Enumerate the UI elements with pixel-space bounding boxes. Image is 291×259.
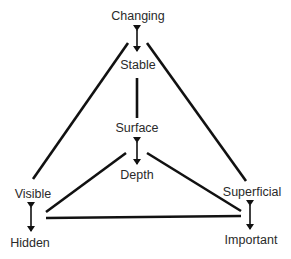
label-visible: Visible — [15, 187, 52, 201]
label-surface: Surface — [115, 121, 158, 135]
label-superficial: Superficial — [223, 185, 281, 199]
label-changing: Changing — [111, 9, 165, 23]
line-depth-hidden — [46, 153, 126, 212]
label-stable: Stable — [120, 58, 155, 72]
line-hidden-important — [46, 216, 241, 218]
label-important: Important — [225, 233, 278, 247]
line-depth-important — [147, 153, 241, 211]
label-hidden: Hidden — [10, 236, 50, 250]
line-stable-visible — [33, 43, 128, 179]
line-stable-superficial — [147, 43, 246, 181]
label-depth: Depth — [120, 168, 153, 182]
